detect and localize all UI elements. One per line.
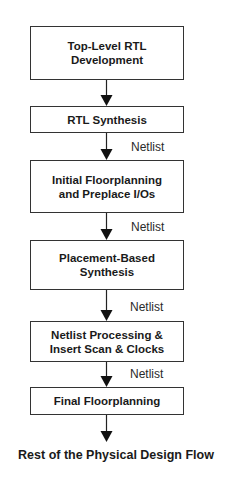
arrow-down-icon (100, 80, 113, 106)
step-box-final-floorplanning: Final Floorplanning (30, 387, 184, 415)
step-box-netlist-processing: Netlist Processing & Insert Scan & Clock… (30, 321, 184, 362)
step-label: Netlist Processing & Insert Scan & Clock… (50, 328, 164, 356)
flow-arrow (100, 213, 113, 240)
edge-label-netlist: Netlist (130, 367, 163, 381)
step-label: Initial Floorplanning and Preplace I/Os (52, 173, 162, 201)
flow-arrow (100, 290, 113, 321)
edge-label-netlist: Netlist (131, 220, 164, 234)
edge-label-netlist: Netlist (131, 140, 164, 154)
step-box-top-level-rtl: Top-Level RTL Development (30, 26, 184, 80)
flow-arrow (100, 415, 113, 442)
flow-arrow (100, 362, 113, 387)
flow-arrow (100, 133, 113, 160)
arrow-down-icon (100, 415, 113, 442)
step-box-placement-based-synthesis: Placement-Based Synthesis (30, 240, 184, 290)
step-label: Placement-Based Synthesis (59, 251, 155, 279)
step-box-rtl-synthesis: RTL Synthesis (30, 106, 184, 133)
flow-arrow (100, 80, 113, 106)
step-label: Top-Level RTL Development (67, 39, 146, 67)
step-label: RTL Synthesis (67, 113, 147, 127)
end-label: Rest of the Physical Design Flow (0, 447, 232, 463)
arrow-down-icon (100, 133, 113, 160)
step-label: Final Floorplanning (54, 394, 161, 408)
arrow-down-icon (100, 213, 113, 240)
edge-label-netlist: Netlist (130, 300, 163, 314)
step-box-initial-floorplanning: Initial Floorplanning and Preplace I/Os (30, 160, 184, 213)
arrow-down-icon (100, 290, 113, 321)
arrow-down-icon (100, 362, 113, 387)
